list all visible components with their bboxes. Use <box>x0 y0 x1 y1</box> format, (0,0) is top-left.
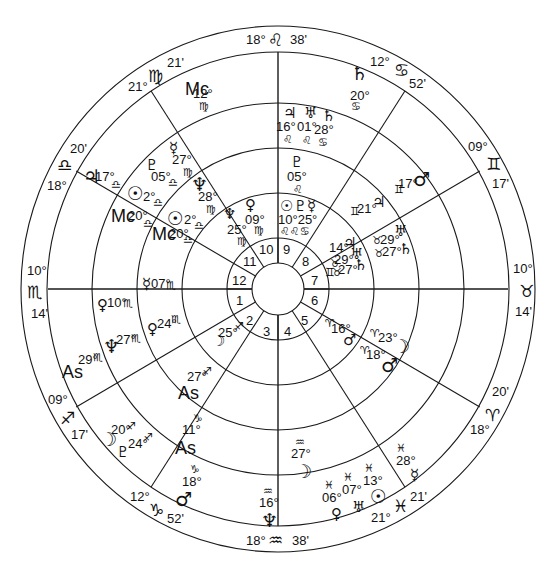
scorpio-icon: ♏ <box>93 351 103 364</box>
virgo-icon: ♍ <box>206 203 216 216</box>
middle-ring-planets: ♃ 16° ♌ ♅ 01° ♌ ♄ 28° ♋ ♉ 29° ♅ ♉ 27° ♄ … <box>111 104 412 458</box>
jupiter-icon: ♃ <box>372 193 385 211</box>
cusp-12-minutes: 17' <box>492 176 509 191</box>
taurus-sign-icon: ♉ <box>519 281 534 301</box>
saturn-icon: ♄ <box>399 240 412 258</box>
cusp-3-degree: 21° <box>371 510 391 525</box>
planet-degree: 16° <box>259 495 279 510</box>
cancer-sign-icon: ♋ <box>394 60 409 80</box>
virgo-icon: ♍ <box>254 224 264 237</box>
leo-icon: ♌ <box>302 134 312 147</box>
house-7: 7 <box>311 273 318 288</box>
cusp-6-degree: 09° <box>48 392 68 407</box>
planet-degree: 27° <box>172 152 192 167</box>
leo-sign-icon: ♌ <box>268 30 283 50</box>
sun-icon: ☉ <box>370 485 387 507</box>
neptune-icon: ♆ <box>223 205 236 223</box>
scorpio-icon: ♏ <box>131 332 141 345</box>
outer-ring-planets: ♄ 20° ♋ ♊ 17° ♂ ♊ 21° ♃ ♈ 23° ☽ ♓ 28° ☿ … <box>62 62 430 531</box>
libra-icon: ♎ <box>183 233 193 246</box>
mercury-icon: ☿ <box>410 466 419 484</box>
uranus-icon: ♅ <box>394 222 407 240</box>
house-5: 5 <box>301 313 308 328</box>
libra-icon: ♎ <box>111 178 121 191</box>
planet-degree: 05° <box>287 169 307 184</box>
sagittarius-icon: ♐ <box>234 320 244 333</box>
virgo-icon: ♍ <box>199 100 209 113</box>
house-9: 9 <box>283 242 290 257</box>
neptune-icon: ♆ <box>261 509 278 531</box>
astrology-chart-wheel: 1 2 3 4 5 6 7 8 9 10 11 12 18° ♌ 38' 12°… <box>0 0 554 570</box>
gemini-sign-icon: ♊ <box>486 154 501 174</box>
ascendant-label: As <box>175 438 196 458</box>
cusp-3-minutes: 21' <box>410 489 427 504</box>
sagittarius-icon: ♐ <box>143 431 153 444</box>
leo-icon: ♌ <box>293 183 303 196</box>
cusp-ic-minutes: 38' <box>292 533 309 548</box>
cusp-labels: 18° ♌ 38' 12° ♋ 52' 09° ♊ 17' 10° ♉ 14' … <box>27 30 534 550</box>
house-10: 10 <box>259 242 273 257</box>
libra-sign-icon: ♎ <box>57 155 72 175</box>
cusp-5-degree: 12° <box>130 489 150 504</box>
sagittarius-sign-icon: ♐ <box>60 408 75 428</box>
sun-icon: ☉ <box>127 182 144 204</box>
house-3: 3 <box>263 324 270 339</box>
sun-icon: ☉ <box>167 207 184 229</box>
planet-degree: 12° <box>193 86 213 101</box>
libra-icon: ♎ <box>194 219 204 232</box>
cusp-asc-right-degree: 10° <box>513 261 533 276</box>
mars-icon: ♂ <box>381 354 398 376</box>
house-cusp-line <box>151 332 250 487</box>
center-hub <box>252 263 304 315</box>
planet-degree: 11° <box>182 422 201 437</box>
venus-icon: ♀ <box>331 505 342 523</box>
mars-icon: ♂ <box>175 488 192 510</box>
cusp-11-degree: 12° <box>370 54 390 69</box>
cusp-2-degree: 18° <box>470 422 490 437</box>
cusp-9-degree: 21° <box>128 79 148 94</box>
cusp-11-minutes: 52' <box>409 76 426 91</box>
sagittarius-icon: ♐ <box>126 420 136 433</box>
cusp-8-minutes: 20' <box>70 141 87 156</box>
cusp-8-degree: 18° <box>47 178 67 193</box>
cusp-5-minutes: 52' <box>167 511 184 526</box>
house-4: 4 <box>284 324 291 339</box>
scorpio-icon: ♏ <box>171 313 181 326</box>
planet-degree: 18° <box>182 474 202 489</box>
scorpio-sign-icon: ♏ <box>27 282 42 302</box>
planet-degree: 28° <box>198 189 218 204</box>
scorpio-icon: ♏ <box>166 279 176 292</box>
scorpio-icon: ♏ <box>123 297 133 310</box>
moon-icon: ☽ <box>295 460 312 482</box>
house-1: 1 <box>236 293 243 308</box>
capricorn-sign-icon: ♑ <box>149 500 164 520</box>
virgo-icon: ♍ <box>237 235 247 248</box>
saturn-icon: ♄ <box>354 256 367 274</box>
cancer-icon: ♋ <box>351 100 361 113</box>
house-6: 6 <box>311 293 318 308</box>
cusp-mc-degree: 18° <box>246 32 266 47</box>
pisces-sign-icon: ♓ <box>393 496 408 516</box>
aquarius-sign-icon: ♒ <box>268 530 283 550</box>
mars-icon: ♂ <box>413 168 430 190</box>
planet-degree: 06° <box>322 490 342 505</box>
leo-leo-cancer-icon: ♌♌♋ <box>280 225 310 238</box>
cancer-icon: ♋ <box>318 136 328 149</box>
planet-degree: 28° <box>314 122 334 137</box>
planet-degree: 07° <box>342 482 362 497</box>
cusp-ic-degree: 18° <box>246 533 266 548</box>
house-8: 8 <box>302 254 309 269</box>
sagittarius-icon: ♐ <box>202 365 212 378</box>
ascendant-label: As <box>178 383 199 403</box>
leo-icon: ♌ <box>283 133 293 146</box>
cusp-asc-left-minutes: 14' <box>31 306 48 321</box>
mercury-icon: ☿ <box>142 275 151 293</box>
planet-degree: 27° <box>291 446 311 461</box>
house-numbers: 1 2 3 4 5 6 7 8 9 10 11 12 <box>232 242 318 339</box>
house-cusp-line <box>306 91 405 246</box>
cusp-6-minutes: 17' <box>71 427 88 442</box>
cusp-12-degree: 09° <box>468 139 488 154</box>
cusp-mc-minutes: 38' <box>290 32 307 47</box>
house-11: 11 <box>243 254 257 269</box>
libra-icon: ♎ <box>153 196 163 209</box>
